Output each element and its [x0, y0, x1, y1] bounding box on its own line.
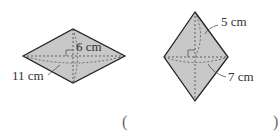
right-side-label: 7 cm [228, 70, 254, 83]
answer-close-paren: ) [273, 114, 278, 130]
right-half-diagonal-label: 5 cm [221, 15, 247, 28]
left-half-diagonal-label: 6 cm [76, 40, 102, 53]
left-side-label: 11 cm [12, 69, 44, 82]
right-rhombus [164, 12, 228, 101]
answer-open-paren: ( [122, 114, 127, 130]
